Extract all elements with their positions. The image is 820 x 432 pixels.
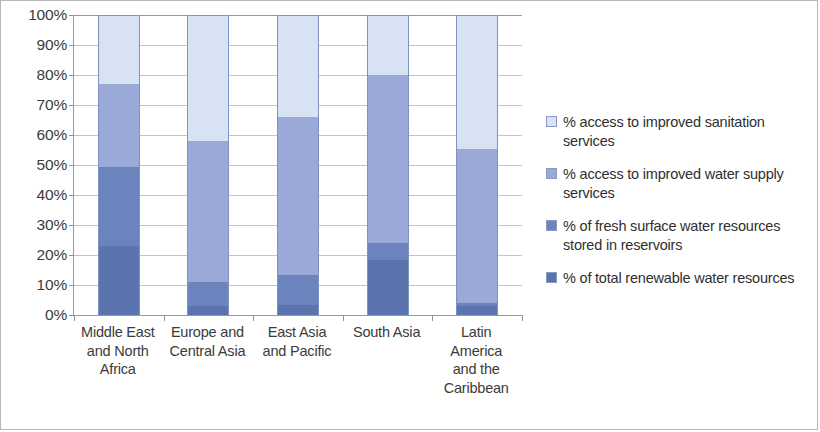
bar-segment[interactable] bbox=[456, 149, 498, 304]
legend-swatch-icon bbox=[546, 116, 557, 127]
category-label-line: East Asia bbox=[252, 323, 342, 342]
bar-segment[interactable] bbox=[98, 84, 140, 167]
category-label-line: and Pacific bbox=[252, 342, 342, 361]
chart-legend: % access to improved sanitation services… bbox=[546, 113, 814, 302]
bar-segment[interactable] bbox=[456, 303, 498, 306]
y-axis-tick-label: 20% bbox=[37, 246, 67, 264]
category-label-line: and North bbox=[73, 342, 163, 361]
category-label-line: Europe and bbox=[163, 323, 253, 342]
bar-segment[interactable] bbox=[98, 167, 140, 247]
category-label-line: South Asia bbox=[342, 323, 432, 342]
bar-segment[interactable] bbox=[277, 305, 319, 316]
legend-entry[interactable]: % of fresh surface water resources store… bbox=[546, 217, 814, 255]
x-axis-category-label: Middle Eastand NorthAfrica bbox=[73, 323, 163, 379]
legend-label: % access to improved sanitation services bbox=[563, 113, 814, 151]
bar-segment[interactable] bbox=[367, 15, 409, 75]
bar-column[interactable] bbox=[277, 15, 319, 315]
bar-segment[interactable] bbox=[277, 15, 319, 117]
bar-column[interactable] bbox=[98, 15, 140, 315]
y-axis-tick-label: 100% bbox=[28, 6, 67, 24]
x-axis-tick-mark bbox=[74, 315, 75, 321]
x-axis-category-label: South Asia bbox=[342, 323, 432, 342]
y-axis-tick-label: 70% bbox=[37, 96, 67, 114]
bar-segment[interactable] bbox=[187, 15, 229, 141]
bar-column[interactable] bbox=[456, 15, 498, 315]
category-label-line: Central Asia bbox=[163, 342, 253, 361]
legend-label: % of fresh surface water resources store… bbox=[563, 217, 814, 255]
bar-stack bbox=[187, 15, 229, 315]
bar-segment[interactable] bbox=[367, 243, 409, 260]
x-axis-tick-mark bbox=[432, 315, 433, 321]
bar-segment[interactable] bbox=[98, 15, 140, 84]
y-axis-tick-label: 80% bbox=[37, 66, 67, 84]
x-axis-category-label: Europe andCentral Asia bbox=[163, 323, 253, 360]
legend-swatch-icon bbox=[546, 168, 557, 179]
legend-entry[interactable]: % access to improved water supply servic… bbox=[546, 165, 814, 203]
bar-stack bbox=[98, 15, 140, 315]
x-axis-tick-mark bbox=[343, 315, 344, 321]
legend-label: % access to improved water supply servic… bbox=[563, 165, 814, 203]
bar-segment[interactable] bbox=[277, 117, 319, 275]
bar-segment[interactable] bbox=[98, 246, 140, 315]
bar-column[interactable] bbox=[187, 15, 229, 315]
category-label-line: and the bbox=[431, 360, 521, 379]
bar-segment[interactable] bbox=[456, 306, 498, 315]
bar-segment[interactable] bbox=[367, 75, 409, 243]
legend-entry[interactable]: % access to improved sanitation services bbox=[546, 113, 814, 151]
category-label-line: Latin bbox=[431, 323, 521, 342]
bar-segment[interactable] bbox=[187, 306, 229, 315]
legend-label: % of total renewable water resources bbox=[563, 269, 794, 288]
bar-stack bbox=[367, 15, 409, 315]
x-axis-tick-mark bbox=[164, 315, 165, 321]
category-label-line: Middle East bbox=[73, 323, 163, 342]
y-axis-tick-label: 50% bbox=[37, 156, 67, 174]
y-axis-tick-label: 40% bbox=[37, 186, 67, 204]
bar-segment[interactable] bbox=[277, 275, 319, 305]
y-axis-tick-label: 10% bbox=[37, 276, 67, 294]
bar-stack bbox=[456, 15, 498, 315]
plot-wrapper: 0%10%20%30%40%50%60%70%80%90%100% Middle… bbox=[1, 1, 541, 432]
bars-layer bbox=[74, 15, 522, 315]
x-axis-tick-mark bbox=[522, 315, 523, 321]
y-axis-tick-label: 90% bbox=[37, 36, 67, 54]
legend-swatch-icon bbox=[546, 272, 557, 283]
x-axis-category-label: East Asiaand Pacific bbox=[252, 323, 342, 360]
chart-frame: 0%10%20%30%40%50%60%70%80%90%100% Middle… bbox=[0, 0, 818, 430]
y-axis-tick-label: 30% bbox=[37, 216, 67, 234]
y-axis-labels: 0%10%20%30%40%50%60%70%80%90%100% bbox=[9, 9, 67, 315]
plot-area bbox=[73, 15, 522, 316]
x-axis-category-labels: Middle Eastand NorthAfricaEurope andCent… bbox=[73, 323, 521, 428]
category-label-line: Caribbean bbox=[431, 379, 521, 398]
x-axis-category-label: LatinAmericaand theCaribbean bbox=[431, 323, 521, 397]
y-axis-tick-label: 0% bbox=[45, 306, 67, 324]
category-label-line: Africa bbox=[73, 360, 163, 379]
x-axis-tick-mark bbox=[253, 315, 254, 321]
y-axis-tick-label: 60% bbox=[37, 126, 67, 144]
bar-segment[interactable] bbox=[187, 282, 229, 306]
bar-stack bbox=[277, 15, 319, 315]
category-label-line: America bbox=[431, 342, 521, 361]
legend-swatch-icon bbox=[546, 220, 557, 231]
bar-column[interactable] bbox=[367, 15, 409, 315]
bar-segment[interactable] bbox=[367, 260, 409, 316]
bar-segment[interactable] bbox=[456, 15, 498, 149]
bar-segment[interactable] bbox=[187, 141, 229, 282]
legend-entry[interactable]: % of total renewable water resources bbox=[546, 269, 814, 288]
